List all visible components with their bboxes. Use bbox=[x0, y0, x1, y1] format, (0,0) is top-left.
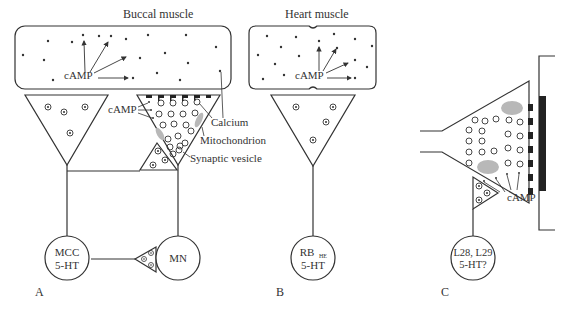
panel-b-title: Heart muscle bbox=[285, 7, 349, 21]
camp-label-c: cAMP bbox=[507, 191, 536, 203]
synapse-terminal-mn bbox=[135, 247, 156, 272]
mcc-terminal bbox=[25, 95, 108, 165]
panel-c: cAMP L28, L29 5-HT? C bbox=[420, 56, 555, 299]
diagram-canvas: Buccal muscle cAMP bbox=[0, 0, 567, 309]
muscle-dots bbox=[22, 34, 221, 81]
l28-transmitter: 5-HT? bbox=[459, 259, 487, 270]
panel-a: Buccal muscle cAMP bbox=[15, 7, 266, 299]
panel-a-title: Buccal muscle bbox=[123, 7, 193, 21]
synaptic-vesicles bbox=[156, 99, 200, 157]
label-mitochondrion: Mitochondrion bbox=[200, 134, 266, 146]
panel-a-letter: A bbox=[35, 285, 44, 299]
l28-label: L28, L29 bbox=[453, 247, 492, 258]
camp-label-muscle: cAMP bbox=[64, 69, 93, 81]
rbhe-neuron bbox=[291, 236, 335, 280]
label-calcium: Calcium bbox=[211, 116, 249, 128]
camp-arrows-heart bbox=[319, 47, 351, 78]
l28-neuron bbox=[451, 236, 495, 280]
buccal-muscle-cell bbox=[15, 26, 231, 89]
mitochondrion bbox=[154, 126, 166, 141]
camp-label-terminal: cAMP bbox=[108, 103, 137, 115]
mcc-neuron bbox=[45, 236, 89, 280]
rbhe-terminal bbox=[271, 95, 355, 166]
mitochondrion-c bbox=[501, 101, 523, 115]
serotonin-vesicles-mcc bbox=[45, 104, 88, 136]
rbhe-label: RB bbox=[300, 246, 315, 258]
mcc-label: MCC bbox=[55, 246, 79, 258]
panel-c-letter: C bbox=[441, 285, 449, 299]
calcium-channels bbox=[146, 95, 211, 101]
rbhe-transmitter: 5-HT bbox=[301, 259, 325, 271]
label-synaptic-vesicle: Synaptic vesicle bbox=[190, 152, 262, 164]
camp-arrows-terminal bbox=[138, 103, 152, 118]
muscle-receptor-bar bbox=[539, 96, 546, 191]
presynaptic-terminal-c bbox=[473, 177, 498, 209]
panel-b-letter: B bbox=[276, 285, 284, 299]
mn-label: MN bbox=[169, 252, 187, 264]
mitochondrion bbox=[193, 111, 205, 128]
mitochondrion-c bbox=[477, 160, 499, 174]
synaptic-vesicles-c bbox=[466, 116, 523, 167]
mcc-transmitter: 5-HT bbox=[55, 259, 79, 271]
panel-b: Heart muscle cAMP RB HE 5-HT B bbox=[249, 7, 376, 299]
